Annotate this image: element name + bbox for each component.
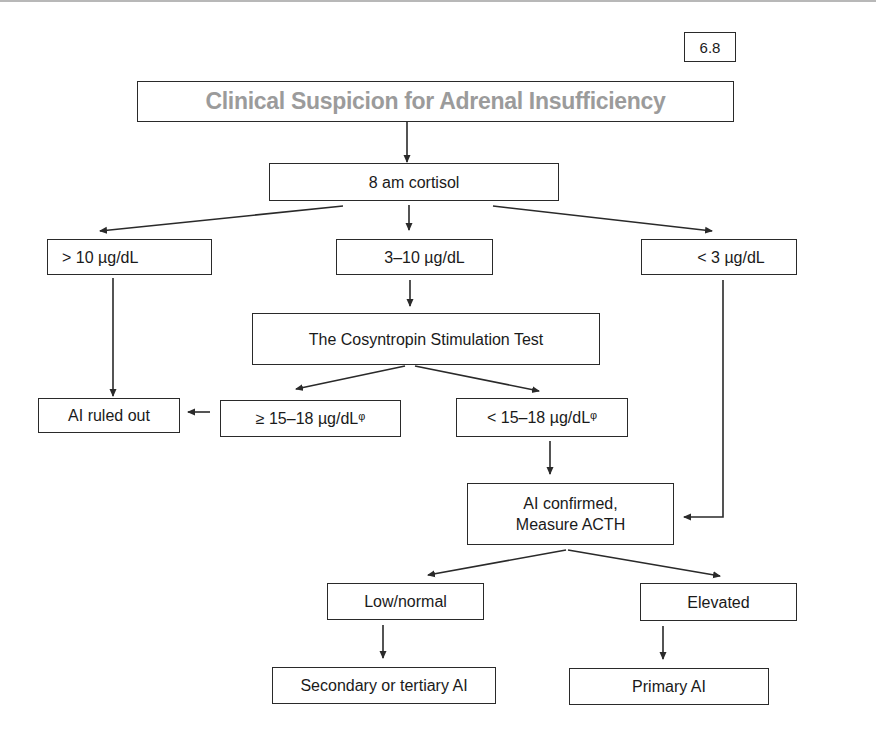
figure-number-label: 6.8 [684,32,736,62]
node-cosyntropin-test: The Cosyntropin Stimulation Test [252,313,600,365]
arrow-stim-to-low [415,366,539,391]
node-primary-ai: Primary AI [569,668,769,705]
arrow-cortisol-to-low [493,206,712,231]
node-acth-low-normal: Low/normal [327,583,484,620]
node-cortisol-high: > 10 µg/dL [47,239,212,275]
node-acth-elevated: Elevated [640,583,797,621]
node-ai-confirmed: AI confirmed, Measure ACTH [467,483,674,545]
node-stim-high: ≥ 15–18 µg/dLᵠ [220,400,401,437]
flowchart-title: Clinical Suspicion for Adrenal Insuffici… [137,81,734,122]
node-cortisol-low: < 3 µg/dL [641,239,797,275]
arrow-confirmed-to-elevated [568,550,720,576]
node-ai-ruled-out: AI ruled out [38,398,180,433]
arrow-stim-to-high [296,366,405,389]
node-ai-confirmed-line1: AI confirmed, [523,493,617,514]
node-cortisol-mid: 3–10 µg/dL [336,239,493,275]
arrow-cortisol-to-high [100,206,343,231]
node-stim-low: < 15–18 µg/dLᵠ [456,398,628,437]
node-ai-confirmed-line2: Measure ACTH [516,514,625,535]
node-8am-cortisol: 8 am cortisol [269,163,559,201]
node-secondary-tertiary-ai: Secondary or tertiary AI [272,667,496,704]
arrow-low-to-confirmed [684,280,723,517]
arrow-confirmed-to-lownormal [428,550,566,575]
